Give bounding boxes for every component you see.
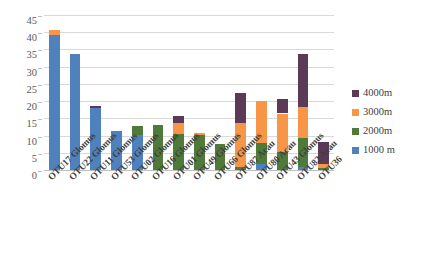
legend-swatch-icon [352, 147, 359, 154]
legend-swatch-icon [352, 128, 359, 135]
y-axis-tick [38, 119, 42, 120]
y-axis-tick [38, 50, 42, 51]
bar-segment-4000m[interactable] [173, 116, 184, 123]
legend-label: 3000m [363, 107, 392, 118]
x-axis-labels: OTU17 GlomusOTU22 GlomusOTU11 GlomusOTU5… [0, 171, 421, 253]
chart-legend: 4000m3000m2000m1000 m [352, 84, 420, 160]
y-axis: 051015202530354045 [0, 16, 42, 171]
y-axis-tick [38, 85, 42, 86]
bar-segment-4000m[interactable] [298, 54, 309, 107]
bar-segment-3000m[interactable] [49, 30, 60, 34]
legend-label: 4000m [363, 88, 392, 99]
bar-group[interactable] [49, 16, 60, 171]
y-axis-tick [38, 16, 42, 17]
legend-swatch-icon [352, 90, 359, 97]
legend-label: 1000 m [363, 145, 395, 156]
bar-segment-1000m[interactable] [49, 35, 60, 171]
legend-item[interactable]: 2000m [352, 122, 420, 141]
bar-segment-3000m[interactable] [298, 107, 309, 138]
y-axis-tick [38, 102, 42, 103]
bar-segment-4000m[interactable] [90, 106, 101, 107]
legend-item[interactable]: 1000 m [352, 141, 420, 160]
y-axis-tick [38, 68, 42, 69]
bar-segment-4000m[interactable] [235, 93, 246, 123]
legend-item[interactable]: 4000m [352, 84, 420, 103]
legend-swatch-icon [352, 109, 359, 116]
stacked-bar[interactable] [49, 30, 60, 171]
y-axis-tick [38, 33, 42, 34]
legend-item[interactable]: 3000m [352, 103, 420, 122]
y-axis-tick [38, 154, 42, 155]
y-axis-tick [38, 137, 42, 138]
legend-label: 2000m [363, 126, 392, 137]
bar-segment-4000m[interactable] [277, 99, 288, 114]
stacked-bar-chart: 051015202530354045 OTU17 GlomusOTU22 Glo… [0, 0, 421, 253]
